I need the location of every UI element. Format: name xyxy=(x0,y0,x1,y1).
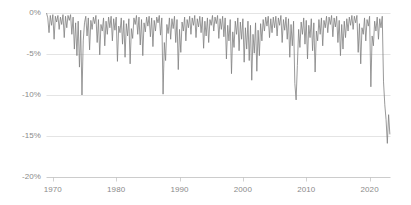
x-axis-label: 2010 xyxy=(286,186,326,194)
x-axis-label: 1970 xyxy=(33,186,73,194)
x-axis-label: 1990 xyxy=(160,186,200,194)
x-axis-label: 2020 xyxy=(350,186,390,194)
x-axis-label: 1980 xyxy=(96,186,136,194)
x-axis-labels: 197019801990200020102020 xyxy=(0,0,411,205)
drawdown-chart: 0%-5%-10%-15%-20% 1970198019902000201020… xyxy=(0,0,411,205)
x-axis-label: 2000 xyxy=(223,186,263,194)
